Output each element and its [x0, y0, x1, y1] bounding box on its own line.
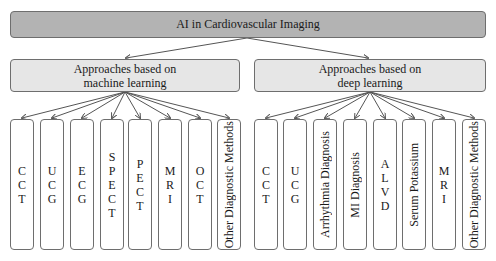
leaf-letter: T — [262, 192, 269, 206]
branch-label-line2: machine learning — [74, 76, 177, 90]
leaf-dl-ucg: UCG — [283, 119, 307, 250]
leaf-letter: T — [136, 199, 143, 213]
leaf-letter: O — [196, 164, 205, 178]
leaf-letter: T — [108, 206, 115, 220]
leaf-label: ALVD — [381, 157, 390, 213]
leaf-dl-mri: MRI — [432, 119, 456, 250]
leaf-ml-other: Other Diagnostic Methods — [217, 119, 241, 250]
leaf-letter: C — [196, 178, 204, 192]
leaf-label: SPECT — [108, 150, 116, 220]
leaf-letter: G — [48, 192, 57, 206]
leaf-letter: M — [165, 164, 176, 178]
leaf-letter: C — [108, 192, 116, 206]
leaf-letter: C — [18, 178, 26, 192]
leaf-label: UCG — [48, 164, 57, 206]
leaf-letter: V — [381, 185, 390, 199]
leaf-letter: S — [109, 150, 116, 164]
branch-deep-learning: Approaches based on deep learning — [254, 59, 486, 92]
leaf-letter: C — [78, 178, 86, 192]
leaf-label: UCG — [291, 164, 300, 206]
leaf-letter: U — [48, 164, 57, 178]
leaf-letter: C — [136, 185, 144, 199]
leaf-label: PECT — [136, 157, 144, 213]
root-node: AI in Cardiovascular Imaging — [10, 11, 486, 38]
leaf-ml-cct: CCT — [10, 119, 34, 250]
leaf-letter: E — [108, 178, 115, 192]
leaf-letter: M — [439, 164, 450, 178]
leaf-letter: I — [168, 192, 172, 206]
leaf-label: OCT — [196, 164, 205, 206]
leaf-ml-mri: MRI — [158, 119, 182, 250]
leaf-letter: E — [78, 164, 85, 178]
leaf-label: MI Diagnosis — [348, 152, 362, 218]
leaf-dl-mi: MI Diagnosis — [343, 119, 367, 250]
leaf-letter: P — [109, 164, 116, 178]
leaf-label: Serum Potassium — [407, 143, 421, 227]
leaf-letter: R — [440, 178, 448, 192]
leaf-letter: L — [381, 171, 388, 185]
leaf-ml-spect: SPECT — [100, 119, 124, 250]
leaf-letter: G — [291, 192, 300, 206]
leaf-letter: T — [196, 192, 203, 206]
leaf-ml-ecg: ECG — [70, 119, 94, 250]
leaf-letter: C — [262, 178, 270, 192]
leaf-label: MRI — [439, 164, 450, 206]
leaf-ml-ucg: UCG — [40, 119, 64, 250]
leaf-ml-oct: OCT — [188, 119, 212, 250]
leaf-letter: T — [18, 192, 25, 206]
branch-label-line1: Approaches based on — [319, 62, 422, 76]
leaf-label: Arrhythmia Diagnosis — [318, 131, 332, 238]
leaf-label: Other Diagnostic Methods — [222, 121, 236, 248]
leaf-letter: A — [381, 157, 390, 171]
leaf-letter: R — [166, 178, 174, 192]
leaf-letter: C — [48, 178, 56, 192]
leaf-letter: E — [136, 171, 143, 185]
leaf-letter: D — [381, 199, 390, 213]
leaf-letter: G — [78, 192, 87, 206]
branch-label-line2: deep learning — [319, 76, 422, 90]
leaf-letter: U — [291, 164, 300, 178]
leaf-dl-potassium: Serum Potassium — [402, 119, 426, 250]
leaf-dl-other: Other Diagnostic Methods — [462, 119, 486, 250]
leaf-label: CCT — [262, 164, 270, 206]
leaf-label: Other Diagnostic Methods — [467, 121, 481, 248]
leaf-letter: C — [262, 164, 270, 178]
leaf-letter: C — [291, 178, 299, 192]
leaf-dl-arrhythmia: Arrhythmia Diagnosis — [313, 119, 337, 250]
root-label: AI in Cardiovascular Imaging — [176, 17, 320, 32]
leaf-dl-alvd: ALVD — [373, 119, 397, 250]
branch-label-line1: Approaches based on — [74, 62, 177, 76]
leaf-label: ECG — [78, 164, 87, 206]
leaf-letter: I — [442, 192, 446, 206]
leaf-ml-pect: PECT — [128, 119, 152, 250]
leaf-label: MRI — [165, 164, 176, 206]
leaf-letter: C — [18, 164, 26, 178]
branch-machine-learning: Approaches based on machine learning — [10, 59, 240, 92]
leaf-label: CCT — [18, 164, 26, 206]
leaf-letter: P — [137, 157, 144, 171]
leaf-dl-cct: CCT — [254, 119, 278, 250]
